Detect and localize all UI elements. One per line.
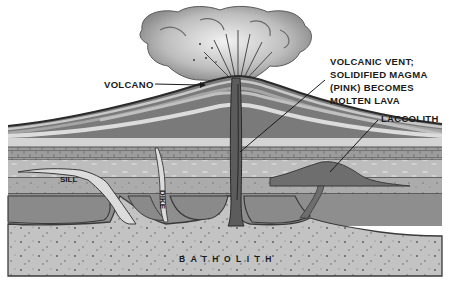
brick-stratum xyxy=(8,147,442,160)
label-vent-line4: MOLTEN LAVA xyxy=(330,95,400,106)
label-laccolith: LACCOLITH xyxy=(381,113,439,124)
label-vent-line1: VOLCANIC VENT; xyxy=(330,56,414,67)
left-pod xyxy=(8,196,110,223)
label-volcano: VOLCANO xyxy=(104,79,154,90)
light-stratum xyxy=(8,138,442,147)
volcano-cross-section-diagram: VOLCANO VOLCANIC VENT; SOLIDIFIED MAGMA … xyxy=(0,0,449,281)
label-batholith: BATHOLITH xyxy=(179,254,277,264)
label-dike: DIKE xyxy=(158,190,167,210)
label-vent-line2: SOLIDIFIED MAGMA xyxy=(330,69,428,80)
label-sill: SILL xyxy=(60,175,77,184)
label-vent-line3: (PINK) BECOMES xyxy=(330,82,414,93)
